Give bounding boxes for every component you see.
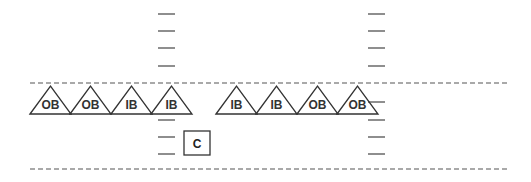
right-tick-marks [368, 14, 385, 154]
triangle-ob: OB [70, 86, 111, 114]
triangle-label: IB [271, 98, 283, 112]
triangle-ob: OB [297, 86, 338, 114]
triangle-ib: IB [111, 86, 152, 114]
triangle-label: IB [231, 98, 243, 112]
triangle-ob: OB [30, 86, 71, 114]
c-box: C [184, 131, 210, 155]
triangle-label: IB [126, 98, 138, 112]
triangle-label: IB [166, 98, 178, 112]
triangle-label: OB [349, 98, 367, 112]
triangle-ib: IB [256, 86, 297, 114]
triangle-ob: OB [337, 86, 378, 114]
triangle-markers: OBOBIBIBIBIBOBOB [30, 86, 378, 114]
lane-diagram: OBOBIBIBIBIBOBOB C [0, 0, 531, 182]
triangle-label: OB [82, 98, 100, 112]
left-tick-marks [158, 14, 175, 154]
triangle-ib: IB [216, 86, 257, 114]
c-box-label: C [193, 137, 202, 151]
triangle-label: OB [309, 98, 327, 112]
triangle-label: OB [42, 98, 60, 112]
triangle-ib: IB [151, 86, 192, 114]
